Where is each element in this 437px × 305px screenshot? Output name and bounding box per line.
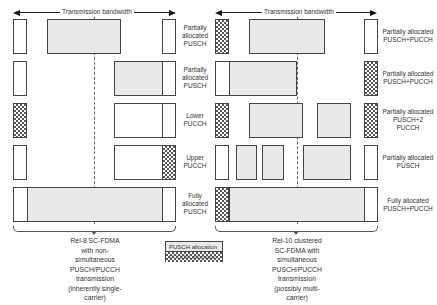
- row-label: Fully allocated PUSCH: [178, 192, 212, 216]
- full-band-block: [215, 187, 378, 222]
- left-caption: Rel-8 SC-FDMA with non- simultaneous PUS…: [54, 236, 136, 303]
- pusch-cluster-2: [262, 145, 284, 180]
- pucch-block: [13, 103, 27, 138]
- pusch-cluster-1: [249, 103, 303, 138]
- edge-box-right: [162, 19, 176, 54]
- brace-tip: [293, 231, 299, 235]
- arrow-left-icon: [215, 10, 222, 16]
- row-label: Partially allocated PUSCH: [178, 66, 212, 90]
- pusch-block: [114, 61, 163, 96]
- pusch-block: [229, 187, 365, 222]
- row-label: Upper PUCCH: [178, 154, 212, 170]
- pusch-block: [27, 187, 163, 222]
- empty-block: [114, 145, 176, 180]
- pucch-block: [215, 19, 229, 54]
- arrow-right-icon: [370, 10, 377, 16]
- pusch-block: [229, 61, 297, 96]
- empty-block: [114, 103, 176, 138]
- right-caption: Rel-10 clustered SC-FDMA with simultaneo…: [256, 236, 338, 303]
- pucch-block: [215, 103, 229, 138]
- arrow-left-icon: [13, 10, 20, 16]
- edge-box-left: [13, 145, 27, 180]
- row-label: Fully allocated PUSCH+PUCCH: [379, 197, 437, 213]
- edge-box-right: [364, 19, 378, 54]
- pucch-block: [162, 145, 176, 180]
- pusch-cluster-1: [236, 145, 257, 180]
- pusch-block: [249, 19, 325, 54]
- pucch-block: [215, 187, 229, 222]
- legend-pucch: PUCCH allocation: [166, 252, 222, 262]
- edge-box-left: [13, 61, 27, 96]
- row-label: Partially allocated PUSCH+PUCCH: [379, 28, 437, 44]
- brace-tip: [91, 231, 97, 235]
- edge-box-right: [364, 145, 378, 180]
- edge-box-left: [13, 19, 27, 54]
- pusch-cluster-3: [303, 145, 351, 180]
- legend-pusch: PUSCH allocation: [166, 242, 222, 252]
- pusch-block: [47, 19, 121, 54]
- row-label: Partially allocated PUSCH: [379, 154, 437, 170]
- row-label: Lower PUCCH: [178, 112, 212, 128]
- block-with-left-edge: [215, 61, 297, 96]
- bandwidth-label: Transmission bandwidth: [262, 8, 336, 15]
- arrow-right-icon: [169, 10, 176, 16]
- edge-box-left: [215, 145, 229, 180]
- row-label: Partially allocated PUSCH: [178, 24, 212, 48]
- pusch-cluster-2: [317, 103, 351, 138]
- full-band-block: [13, 187, 176, 222]
- pucch-block: [364, 61, 378, 96]
- pucch-block: [364, 103, 378, 138]
- row-label: Partially allocated PUSCH+2 PUCCH: [379, 108, 437, 132]
- block-with-right-edge: [114, 61, 176, 96]
- bandwidth-label: Transmission bandwidth: [60, 8, 134, 15]
- legend: PUSCH allocation PUCCH allocation: [165, 241, 223, 262]
- block-divider: [162, 104, 163, 137]
- row-label: Partially allocated PUSCH+PUCCH: [379, 70, 437, 86]
